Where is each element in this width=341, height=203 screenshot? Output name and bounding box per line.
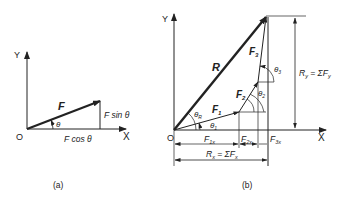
theta-arc (51, 120, 53, 129)
f1x-label: F1x (204, 134, 215, 145)
f2-label: F2 (236, 89, 246, 101)
y-axis-label: Y (14, 50, 20, 60)
caption-a: (a) (53, 180, 64, 190)
origin-label-b: O (167, 133, 174, 143)
f-sin-label: F sin θ (104, 110, 130, 120)
y-axis-label-b: Y (162, 14, 168, 24)
figure-b: Y X O R F1 F2 F3 θR θ1 θ2 θ3 F1x F2x F3x… (162, 14, 332, 190)
f3x-label: F3x (270, 134, 281, 145)
f2x-label: F2x (241, 134, 252, 145)
origin-label: O (16, 132, 23, 142)
theta-3-arc (260, 66, 274, 82)
vector-diagrams: Y X O F θ F sin θ F cos θ (a) (0, 0, 341, 203)
theta-2-arc (247, 99, 254, 112)
rx-label: Rx = ΣFx (206, 149, 238, 160)
resultant-label: R (212, 61, 220, 73)
vector-f1 (174, 112, 239, 130)
theta-2-label: θ2 (258, 89, 265, 99)
theta-3-label: θ3 (274, 65, 281, 75)
f1-label: F1 (212, 104, 222, 116)
caption-b: (b) (242, 180, 253, 190)
ry-label: Ry = ΣFy (299, 68, 332, 79)
figure-a: Y X O F θ F sin θ F cos θ (a) (14, 50, 130, 190)
x-axis-label: X (123, 131, 130, 142)
f-cos-label: F cos θ (64, 134, 92, 144)
theta-1-label: θ1 (210, 121, 217, 131)
theta-r-label: θR (194, 110, 202, 120)
vector-f-label: F (58, 100, 65, 112)
f3-label: F3 (249, 46, 259, 58)
theta-1-arc (199, 123, 200, 130)
theta-label: θ (56, 120, 61, 129)
x-axis-label-b: X (318, 132, 325, 143)
